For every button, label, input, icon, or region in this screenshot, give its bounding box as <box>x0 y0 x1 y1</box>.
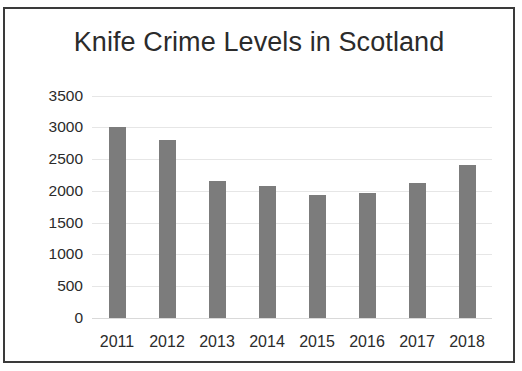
bar <box>209 181 226 318</box>
bar <box>159 140 176 318</box>
bar <box>259 186 276 318</box>
y-axis-tick-label: 2500 <box>49 150 83 168</box>
x-axis-tick-label: 2018 <box>449 333 485 351</box>
x-axis-tick-label: 2014 <box>249 333 285 351</box>
y-axis-tick-label: 2000 <box>49 182 83 200</box>
y-axis-tick-label: 0 <box>74 309 83 327</box>
gridline <box>92 318 492 319</box>
x-axis-tick-label: 2012 <box>149 333 185 351</box>
x-axis-tick-label: 2013 <box>199 333 235 351</box>
bar <box>109 127 126 318</box>
gridline <box>92 223 492 224</box>
gridline <box>92 96 492 97</box>
bar-chart: Knife Crime Levels in Scotland 050010001… <box>5 9 513 361</box>
gridline <box>92 127 492 128</box>
gridline <box>92 159 492 160</box>
chart-frame: Knife Crime Levels in Scotland 050010001… <box>3 7 515 363</box>
y-axis-tick-label: 1500 <box>49 214 83 232</box>
x-axis-tick-label: 2011 <box>100 333 134 351</box>
y-axis-tick-label: 500 <box>57 277 83 295</box>
plot-area: 0500100015002000250030003500 20112012201… <box>92 89 492 325</box>
chart-title: Knife Crime Levels in Scotland <box>5 27 513 58</box>
gridline <box>92 254 492 255</box>
bar <box>359 193 376 318</box>
y-axis-tick-label: 3000 <box>49 118 83 136</box>
gridline <box>92 191 492 192</box>
bar <box>459 165 476 318</box>
x-axis-tick-label: 2017 <box>399 333 435 351</box>
y-axis-tick-label: 1000 <box>49 245 83 263</box>
x-axis-tick-label: 2015 <box>299 333 335 351</box>
bar <box>309 195 326 318</box>
bar <box>409 183 426 318</box>
y-axis-tick-label: 3500 <box>49 87 83 105</box>
x-axis-tick-label: 2016 <box>349 333 385 351</box>
gridline <box>92 286 492 287</box>
